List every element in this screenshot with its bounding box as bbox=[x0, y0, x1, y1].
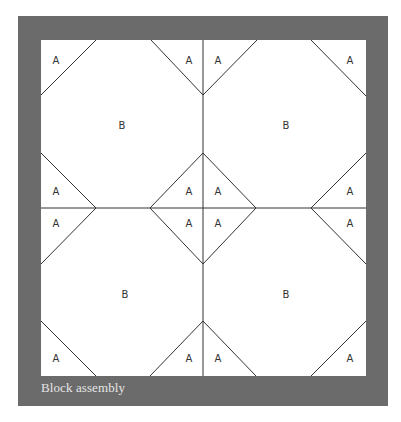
piece-label-a: A bbox=[347, 353, 354, 364]
piece-label-a: A bbox=[215, 186, 222, 197]
piece-label-a: A bbox=[186, 353, 193, 364]
piece-label-a: A bbox=[347, 186, 354, 197]
piece-label-a: A bbox=[186, 218, 193, 229]
piece-label-a: A bbox=[53, 55, 60, 66]
quilt-block-diagram: AAAABBAAAAAAAABBAAAA bbox=[0, 0, 401, 422]
piece-label-a: A bbox=[53, 353, 60, 364]
piece-label-a: A bbox=[186, 55, 193, 66]
piece-label-b: B bbox=[283, 289, 290, 300]
piece-label-a: A bbox=[186, 186, 193, 197]
block-assembly-figure: AAAABBAAAAAAAABBAAAA Block assembly bbox=[0, 0, 401, 422]
figure-caption: Block assembly bbox=[41, 380, 125, 396]
piece-label-a: A bbox=[347, 55, 354, 66]
piece-label-b: B bbox=[119, 120, 126, 131]
piece-label-a: A bbox=[53, 186, 60, 197]
piece-label-a: A bbox=[215, 55, 222, 66]
piece-label-a: A bbox=[215, 353, 222, 364]
piece-label-a: A bbox=[53, 218, 60, 229]
piece-label-a: A bbox=[215, 218, 222, 229]
piece-label-a: A bbox=[347, 218, 354, 229]
piece-label-b: B bbox=[122, 289, 129, 300]
piece-label-b: B bbox=[283, 120, 290, 131]
